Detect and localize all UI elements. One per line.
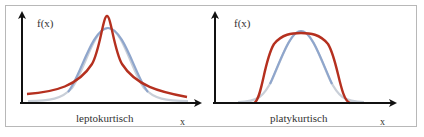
platykurtic-curve — [254, 33, 350, 103]
normal-curve-left-body — [68, 28, 148, 92]
y-axis-label-right: f(x) — [234, 17, 251, 29]
normal-curve-right — [238, 31, 364, 102]
x-axis-label-right: x — [380, 116, 385, 127]
y-axis-label-left: f(x) — [37, 17, 54, 29]
caption-platykurtic: platykurtisch — [270, 112, 327, 124]
kurtosis-diagram — [0, 0, 424, 137]
caption-leptokurtic: leptokurtisch — [76, 112, 133, 124]
x-axis-label-left: x — [180, 116, 185, 127]
